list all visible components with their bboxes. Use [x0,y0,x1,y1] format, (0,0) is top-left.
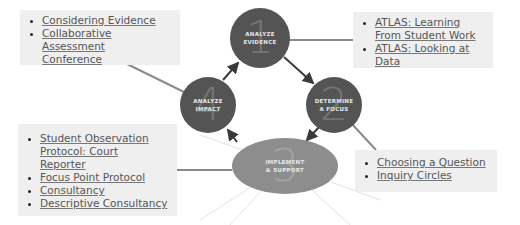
list-item: Student Observation Protocol: Court Repo… [40,132,171,171]
link-descriptive-consultancy[interactable]: Descriptive Consultancy [40,197,167,209]
list-item: Collaborative Assessment Conference [42,27,174,66]
resource-box-implement-support: Student Observation Protocol: Court Repo… [18,124,177,216]
link-considering-evidence[interactable]: Considering Evidence [42,14,156,26]
link-inquiry-circles[interactable]: Inquiry Circles [377,169,452,181]
link-student-observation-protocol[interactable]: Student Observation Protocol: Court Repo… [40,132,149,170]
link-collaborative-assessment-conference[interactable]: Collaborative Assessment Conference [42,27,112,65]
arrow-1-to-2 [284,57,313,83]
list-item: ATLAS: Learning From Student Work [375,16,487,42]
step-label: ANALYZE EVIDENCE [243,30,276,46]
list-item: Descriptive Consultancy [40,197,171,210]
link-choosing-a-question[interactable]: Choosing a Question [377,156,486,168]
step-label: IMPLEMENT & SUPPORT [265,158,304,174]
step-label: ANALYZE IMPACT [193,97,223,113]
connector-line [125,63,186,93]
link-focus-point-protocol[interactable]: Focus Point Protocol [40,171,145,183]
step-3-implement-support: 3 IMPLEMENT & SUPPORT [232,138,338,194]
step-2-determine-focus: 2 DETERMINE A FOCUS [306,77,362,133]
arrow-3-to-4 [228,130,237,142]
list-item: Consultancy [40,184,171,197]
resource-box-analyze-impact: Considering Evidence Collaborative Asses… [20,10,180,65]
list-item: Inquiry Circles [377,169,491,182]
list-item: Considering Evidence [42,14,174,27]
step-label: DETERMINE A FOCUS [315,97,354,113]
link-atlas-learning-from-student-work[interactable]: ATLAS: Learning From Student Work [375,16,476,41]
link-atlas-looking-at-data[interactable]: ATLAS: Looking at Data [375,42,469,67]
resource-box-determine-focus: Choosing a Question Inquiry Circles [355,150,497,192]
list-item: ATLAS: Looking at Data [375,42,487,68]
step-4-analyze-impact: 4 ANALYZE IMPACT [180,77,236,133]
resource-box-analyze-evidence: ATLAS: Learning From Student Work ATLAS:… [353,12,493,68]
list-item: Focus Point Protocol [40,171,171,184]
link-consultancy[interactable]: Consultancy [40,184,105,196]
connector-line [352,124,376,150]
list-item: Choosing a Question [377,156,491,169]
inquiry-cycle-diagram: Considering Evidence Collaborative Asses… [0,0,520,225]
step-1-analyze-evidence: 1 ANALYZE EVIDENCE [230,8,290,68]
arrow-4-to-1 [223,63,238,80]
